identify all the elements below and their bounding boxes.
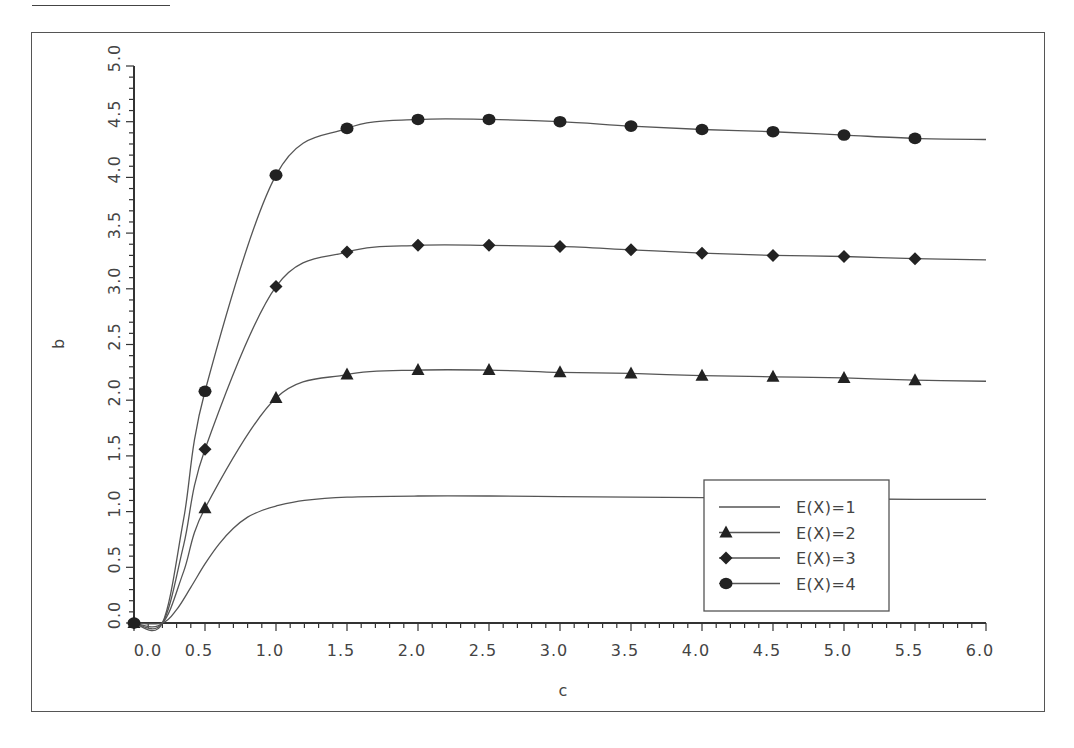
triangle-marker <box>696 369 709 381</box>
triangle-marker <box>270 391 283 403</box>
circle-marker <box>412 114 425 126</box>
diamond-marker <box>554 240 567 253</box>
diamond-marker <box>838 250 851 263</box>
x-tick-label: 3.5 <box>611 641 639 660</box>
x-tick-label: 2.5 <box>469 641 497 660</box>
y-tick-label: 3.0 <box>105 267 124 295</box>
triangle-marker <box>767 370 780 382</box>
x-tick-label: 4.5 <box>753 641 781 660</box>
triangle-marker <box>412 363 425 375</box>
y-tick-label: 4.5 <box>105 99 124 127</box>
diamond-marker <box>412 239 425 252</box>
diamond-marker <box>199 443 212 456</box>
y-tick-label: 5.0 <box>105 44 124 72</box>
chart: 0.00.51.01.52.02.53.03.54.04.55.05.56.00… <box>0 0 1074 748</box>
x-tick-label: 5.5 <box>895 641 923 660</box>
triangle-marker <box>909 373 922 385</box>
y-tick-label: 0.0 <box>105 601 124 629</box>
circle-marker <box>838 129 851 141</box>
triangle-marker <box>199 501 212 513</box>
y-tick-label: 3.5 <box>105 211 124 239</box>
x-tick-label: 3.0 <box>540 641 568 660</box>
y-tick-label: 0.5 <box>105 545 124 573</box>
circle-marker <box>128 617 141 629</box>
x-tick-label: 6.0 <box>966 641 994 660</box>
diamond-marker <box>909 252 922 265</box>
legend-label: E(X)=4 <box>796 575 856 594</box>
triangle-marker <box>838 371 851 383</box>
y-tick-label: 1.0 <box>105 489 124 517</box>
circle-marker <box>199 385 212 397</box>
triangle-marker <box>483 363 496 375</box>
legend-label: E(X)=1 <box>796 498 856 517</box>
x-tick-label: 1.0 <box>256 641 284 660</box>
x-tick-label: 2.0 <box>398 641 426 660</box>
y-tick-label: 1.5 <box>105 434 124 462</box>
circle-marker <box>483 114 496 126</box>
diamond-marker <box>341 246 354 259</box>
circle-marker <box>909 133 922 145</box>
diamond-marker <box>270 280 283 293</box>
triangle-marker <box>554 365 567 377</box>
y-tick-label: 2.0 <box>105 378 124 406</box>
y-axis-label: b <box>49 339 68 349</box>
circle-marker <box>554 116 567 128</box>
x-tick-label: 4.0 <box>682 641 710 660</box>
diamond-marker <box>696 247 709 260</box>
legend: E(X)=1E(X)=2E(X)=3E(X)=4 <box>704 480 889 611</box>
x-tick-label: 0.5 <box>185 641 213 660</box>
diamond-marker <box>483 239 496 252</box>
y-tick-label: 2.5 <box>105 322 124 350</box>
x-axis-label: c <box>559 681 568 700</box>
legend-circle-marker <box>720 578 733 590</box>
x-tick-label: 5.0 <box>824 641 852 660</box>
triangle-marker <box>625 366 638 378</box>
circle-marker <box>270 169 283 181</box>
legend-label: E(X)=2 <box>796 524 856 543</box>
diamond-marker <box>767 249 780 262</box>
circle-marker <box>696 124 709 136</box>
legend-label: E(X)=3 <box>796 549 856 568</box>
x-tick-label: 1.5 <box>327 641 355 660</box>
y-tick-label: 4.0 <box>105 155 124 183</box>
circle-marker <box>767 126 780 138</box>
circle-marker <box>625 120 638 132</box>
diamond-marker <box>625 243 638 256</box>
circle-marker <box>341 123 354 135</box>
x-tick-label: 0.0 <box>134 641 162 660</box>
